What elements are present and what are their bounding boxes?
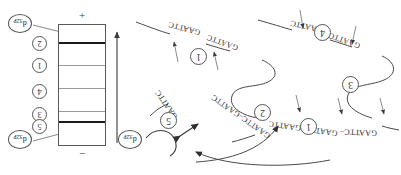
probe-tag-top-text: d <box>23 20 27 28</box>
figure-canvas: + − 2 1 4 3 5 d32P d32P d32P GAATTC GAAT… <box>0 0 401 175</box>
map-label-1b: 1 <box>300 118 317 135</box>
gel-band-3 <box>59 111 105 112</box>
anneal-double-arrow <box>180 124 198 136</box>
probe-tag-map-sub: 32P <box>123 135 132 141</box>
gel-lane <box>58 24 106 146</box>
map-label-5: 5 <box>160 112 177 129</box>
gel-band-1 <box>59 65 105 66</box>
probe-tag-map: d32P <box>118 130 142 149</box>
probe-tag-top-sub: 32P <box>13 19 22 25</box>
ligation-hook <box>146 131 176 157</box>
gel-label-4: 4 <box>32 84 47 99</box>
probe-tag-top: d32P <box>8 14 32 33</box>
gel-label-1: 1 <box>32 58 47 73</box>
probe-tag-bottom-text: d <box>23 136 27 144</box>
probe-tag-bottom: d32P <box>8 130 32 149</box>
probe-tag-map-text: d <box>133 136 137 144</box>
gel-band-2 <box>59 42 105 44</box>
gel-label-2: 2 <box>32 36 47 51</box>
sequence-tail-h: GAATTC– <box>340 127 377 137</box>
map-label-4: 4 <box>314 24 331 41</box>
probe-tag-bottom-sub: 32P <box>13 135 22 141</box>
map-label-3: 3 <box>342 76 359 93</box>
map-label-1: 1 <box>190 48 207 65</box>
cut-site-arrows <box>174 10 384 114</box>
feedback-arrow <box>196 152 330 165</box>
map-label-2: 2 <box>254 104 271 121</box>
gel-band-4 <box>59 88 105 89</box>
anode-label: + <box>72 10 92 20</box>
gel-band-5 <box>59 121 105 123</box>
gel-label-5: 5 <box>32 119 47 134</box>
cathode-label: − <box>72 148 92 158</box>
